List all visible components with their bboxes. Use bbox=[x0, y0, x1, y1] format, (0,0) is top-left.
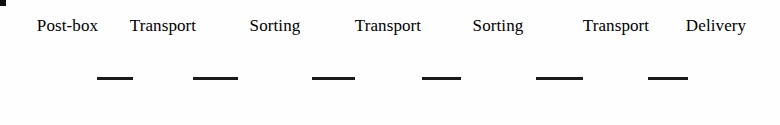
node-label-post-box: Post-box bbox=[20, 16, 115, 35]
node-label-delivery: Delivery bbox=[671, 16, 761, 35]
node-label-transport-2: Transport bbox=[338, 16, 438, 35]
node-label-transport-3: Transport bbox=[566, 16, 666, 35]
node-label-sorting-1: Sorting bbox=[232, 16, 318, 35]
label-layer: Post-box Transport Sorting Transport Sor… bbox=[0, 0, 780, 125]
node-label-sorting-2: Sorting bbox=[455, 16, 541, 35]
process-flow-diagram: Post-box Transport Sorting Transport Sor… bbox=[0, 0, 780, 125]
node-label-transport-1: Transport bbox=[113, 16, 213, 35]
